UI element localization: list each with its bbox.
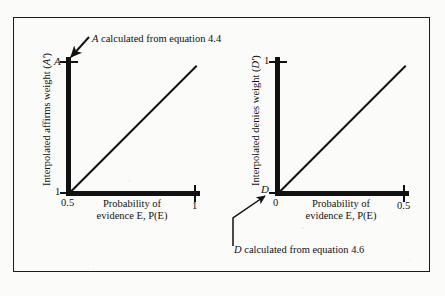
left-chart-annotation-var: A bbox=[92, 33, 98, 44]
left-chart-y-axis-label-var: A' bbox=[41, 57, 52, 66]
right-chart-x-axis bbox=[275, 191, 409, 196]
left-chart-annotation-rest: calculated from equation 4.4 bbox=[101, 33, 221, 44]
left-chart-x-axis-caption-line1: Probability of bbox=[86, 198, 178, 210]
left-chart-x-axis-caption-line2: evidence E, P(E) bbox=[86, 210, 178, 222]
left-chart-ytick-top-label: A bbox=[54, 55, 61, 67]
right-chart-x-axis-caption-line2: evidence E, P(E) bbox=[295, 210, 387, 222]
right-chart-data-line bbox=[277, 65, 406, 194]
left-chart-y-axis-label-suffix: ) bbox=[41, 53, 52, 57]
left-chart-y-axis-label-prefix: Interpolated affirms weight ( bbox=[41, 65, 52, 186]
right-chart-ytick-top-mark bbox=[269, 61, 287, 63]
right-chart-annotation-var: D bbox=[234, 244, 242, 255]
right-chart-x-axis-caption-line1: Probability of bbox=[295, 198, 387, 210]
right-chart-y-axis bbox=[275, 57, 280, 196]
chart-panel-left: Interpolated affirms weight (A') A 1 0.5… bbox=[0, 0, 222, 296]
right-chart-y-axis-label: Interpolated denies weight (D') bbox=[250, 55, 261, 186]
left-chart-x-axis bbox=[66, 191, 200, 196]
left-chart-data-line bbox=[68, 65, 197, 194]
left-chart-y-axis bbox=[66, 57, 71, 196]
right-chart-y-axis-label-var: D' bbox=[250, 59, 261, 69]
right-chart-y-axis-label-prefix: Interpolated denies weight ( bbox=[250, 69, 261, 187]
right-chart-y-axis-label-suffix: ) bbox=[250, 55, 261, 59]
left-chart-ytick-top-mark bbox=[60, 61, 78, 63]
figure-root: Interpolated affirms weight (A') A 1 0.5… bbox=[0, 0, 445, 296]
left-chart-ytick-origin-label: 1 bbox=[55, 186, 60, 198]
right-chart-annotation: D calculated from equation 4.6 bbox=[234, 244, 364, 256]
chart-panel-right: Interpolated denies weight (D') 1 D 0 0.… bbox=[209, 0, 431, 296]
left-chart-xtick-start-label: 0.5 bbox=[61, 197, 74, 209]
right-chart-ytick-origin-label: D bbox=[261, 183, 269, 195]
left-chart-xtick-end-label: 1 bbox=[192, 200, 197, 212]
left-chart-y-axis-label: Interpolated affirms weight (A') bbox=[41, 53, 52, 186]
right-chart-x-axis-caption: Probability of evidence E, P(E) bbox=[295, 198, 387, 222]
right-chart-xtick-start-label: 0 bbox=[273, 197, 278, 209]
left-chart-x-axis-caption: Probability of evidence E, P(E) bbox=[86, 198, 178, 222]
right-chart-xtick-end-label: 0.5 bbox=[397, 200, 410, 212]
left-chart-annotation: A calculated from equation 4.4 bbox=[92, 33, 221, 45]
right-chart-ytick-top-label: 1 bbox=[264, 55, 269, 67]
right-chart-annotation-rest: calculated from equation 4.6 bbox=[244, 244, 364, 255]
